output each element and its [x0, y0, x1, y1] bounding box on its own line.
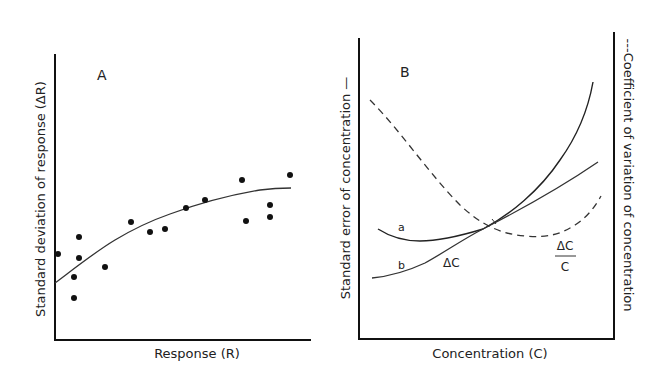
- data-point: [71, 274, 77, 280]
- panel-a: A Response (R) Standard deviation of res…: [33, 54, 311, 361]
- panel-b-y2-label: ---Coefficient of variation of concentra…: [621, 39, 636, 312]
- data-point: [202, 197, 208, 203]
- panel-b-label-dcc-den: C: [561, 260, 569, 274]
- data-point: [55, 251, 61, 257]
- data-point: [239, 177, 245, 183]
- panel-b-label-a: a: [398, 221, 405, 234]
- data-point: [102, 264, 108, 270]
- panel-b-label-dcc-num: ΔC: [557, 239, 574, 253]
- data-point: [128, 219, 134, 225]
- figure: A Response (R) Standard deviation of res…: [0, 0, 663, 379]
- data-point: [147, 229, 153, 235]
- panel-b-dashed-curve-cv: [370, 100, 601, 237]
- panel-b-curve-a: [378, 82, 593, 241]
- data-point: [267, 202, 273, 208]
- data-point: [267, 214, 273, 220]
- panel-b-letter: B: [400, 64, 410, 80]
- data-point: [71, 295, 77, 301]
- panel-b-y-label: Standard error of concentration —: [338, 77, 353, 300]
- data-point: [287, 172, 293, 178]
- panel-a-data-points: [55, 172, 293, 301]
- panel-b-label-dc: ΔC: [443, 256, 460, 270]
- data-point: [243, 218, 249, 224]
- data-point: [183, 205, 189, 211]
- panel-a-y-label: Standard deviation of response (ΔR): [33, 81, 48, 317]
- data-point: [76, 234, 82, 240]
- data-point: [162, 226, 168, 232]
- panel-b-x-label: Concentration (C): [432, 346, 547, 361]
- data-point: [76, 255, 82, 261]
- panel-a-letter: A: [97, 67, 107, 83]
- panel-b: B Concentration (C) Standard error of co…: [338, 32, 636, 361]
- panel-b-label-b: b: [398, 259, 405, 272]
- panel-a-fit-curve: [55, 188, 291, 283]
- panel-a-x-label: Response (R): [154, 346, 240, 361]
